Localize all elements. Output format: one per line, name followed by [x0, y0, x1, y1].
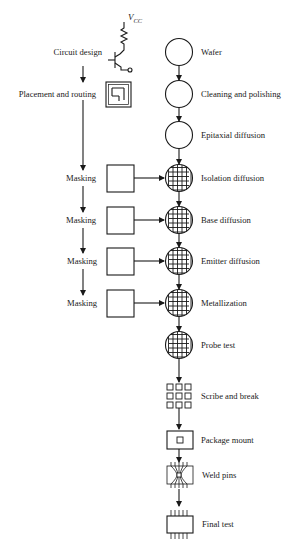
die-grid-icon: [167, 384, 191, 408]
vcc-label: VCC: [128, 12, 142, 24]
label-masking-1: Masking: [66, 173, 96, 183]
isolation-node: [166, 165, 193, 192]
label-metallization: Metallization: [201, 298, 247, 308]
wafer-node: [166, 39, 193, 66]
package-mount-icon: [167, 431, 193, 449]
ic-fabrication-flowchart: [0, 0, 295, 555]
label-epitaxial-diffusion: Epitaxial diffusion: [201, 130, 265, 140]
transistor-schematic-icon: [108, 22, 132, 72]
label-placement-routing: Placement and routing: [19, 89, 96, 99]
epitaxial-node: [166, 122, 193, 149]
label-final-test: Final test: [202, 519, 234, 529]
base-node: [166, 207, 193, 234]
label-circuit-design: Circuit design: [54, 47, 102, 57]
final-test-chip-icon: [167, 510, 193, 539]
layout-routing-icon: [106, 82, 131, 107]
label-weld-pins: Weld pins: [202, 470, 236, 480]
mask-box: [107, 290, 134, 317]
label-package-mount: Package mount: [201, 435, 254, 445]
label-probe-test: Probe test: [201, 340, 235, 350]
label-wafer: Wafer: [201, 47, 222, 57]
label-emitter-diffusion: Emitter diffusion: [201, 256, 260, 266]
probe-node: [166, 332, 193, 359]
mask-box: [107, 248, 134, 275]
label-masking-3: Masking: [67, 256, 97, 266]
mask-box: [107, 207, 134, 234]
emitter-node: [166, 248, 193, 275]
label-base-diffusion: Base diffusion: [201, 215, 251, 225]
label-isolation-diffusion: Isolation diffusion: [201, 173, 264, 183]
label-cleaning-polishing: Cleaning and polishing: [201, 89, 281, 99]
cleaning-node: [166, 81, 193, 108]
weld-pins-icon: [167, 462, 193, 488]
metallization-node: [166, 290, 193, 317]
label-masking-2: Masking: [66, 215, 96, 225]
label-masking-4: Masking: [67, 298, 97, 308]
mask-box: [107, 165, 134, 192]
label-scribe-break: Scribe and break: [201, 391, 259, 401]
